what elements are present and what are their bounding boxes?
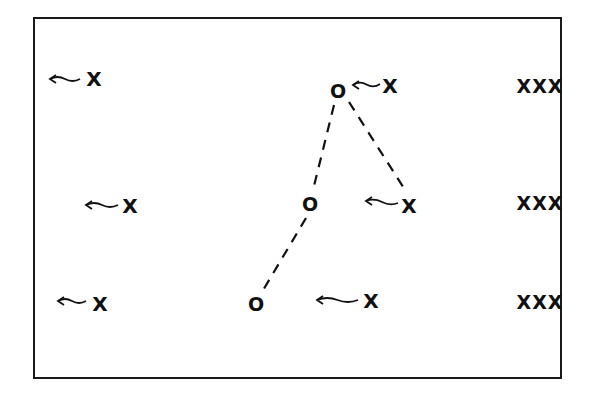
defender-group-marker: XXX xyxy=(517,194,564,213)
diagram-lines xyxy=(0,0,599,399)
defender-marker: X xyxy=(92,294,107,314)
wavy-movement-arrow xyxy=(50,77,80,81)
pass-route-dashed-line xyxy=(349,102,407,193)
defender-group-marker: XXX xyxy=(517,293,564,312)
defender-marker: X xyxy=(401,196,416,216)
arrowhead-icon xyxy=(58,297,64,305)
defender-marker: X xyxy=(86,69,101,89)
defender-marker: X xyxy=(122,196,137,216)
pass-route-dashed-line xyxy=(313,105,334,190)
arrowhead-icon xyxy=(50,75,56,83)
defender-marker: X xyxy=(382,76,397,96)
wavy-movement-arrow xyxy=(317,298,358,302)
offense-player-marker: O xyxy=(248,295,264,314)
pass-route-dashed-line xyxy=(262,218,306,292)
arrowhead-icon xyxy=(353,81,359,89)
offense-player-marker: O xyxy=(330,82,346,101)
arrowhead-icon xyxy=(317,296,323,304)
wavy-movement-arrow xyxy=(86,203,118,207)
arrowhead-icon xyxy=(86,201,92,209)
offense-player-marker: O xyxy=(302,195,318,214)
defender-marker: X xyxy=(363,291,378,311)
defender-group-marker: XXX xyxy=(517,77,564,96)
wavy-movement-arrow xyxy=(58,299,86,303)
